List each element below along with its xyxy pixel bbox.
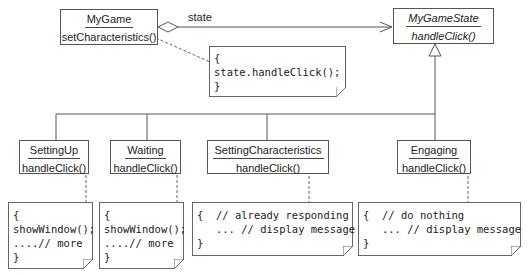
note-line: } [363, 237, 369, 249]
note-line: ....// more [104, 237, 174, 249]
note-fold-icon [343, 246, 353, 256]
note-settingcharacteristics: { // already responding ... // display m… [192, 202, 353, 256]
class-operation: handleClick() [394, 29, 493, 43]
note-line: { // do nothing [363, 209, 464, 221]
class-operation: setCharacteristics() [61, 30, 157, 44]
note-line: { // already responding [197, 209, 349, 221]
note-line: } [104, 251, 110, 263]
class-operation: handleClick() [208, 161, 328, 175]
class-name: Engaging [409, 143, 460, 159]
note-line: showWindow(); [13, 223, 95, 235]
note-fold-icon [336, 87, 346, 97]
aggregation-diamond-icon [158, 22, 178, 32]
class-settingcharacteristics[interactable]: SettingCharacteristics handleClick() [207, 140, 329, 174]
inheritance-triangle-icon [429, 44, 441, 56]
note-fold-icon [83, 259, 93, 269]
note-line: { [13, 209, 19, 221]
note-line: } [197, 237, 203, 249]
class-engaging[interactable]: Engaging handleClick() [397, 140, 471, 174]
note-line: } [13, 251, 19, 263]
note-waiting: { showWindow(); ....// more } [99, 202, 184, 269]
note-line: ... // display message [363, 223, 521, 235]
class-name: SettingCharacteristics [213, 143, 324, 159]
class-waiting[interactable]: Waiting handleClick() [110, 140, 181, 174]
class-settingup[interactable]: SettingUp handleClick() [19, 140, 89, 174]
class-name: MyGameState [406, 11, 480, 27]
note-line: } [214, 80, 220, 92]
class-mygame[interactable]: MyGame setCharacteristics() [60, 9, 158, 45]
note-line: ... // display message [197, 223, 355, 235]
class-operation: handleClick() [111, 161, 180, 175]
note-line: { [104, 209, 110, 221]
note-line: ....// more [13, 237, 83, 249]
note-line: state.handleClick(); [214, 66, 340, 78]
class-name: SettingUp [28, 143, 80, 159]
class-mygamestate[interactable]: MyGameState handleClick() [393, 8, 494, 44]
association-label: state [188, 11, 212, 23]
note-fold-icon [174, 259, 184, 269]
note-fold-icon [511, 246, 521, 256]
class-name: Waiting [125, 143, 165, 159]
class-operation: handleClick() [20, 161, 88, 175]
class-operation: handleClick() [398, 161, 470, 175]
note-line: { [214, 52, 220, 64]
class-name: MyGame [85, 12, 134, 28]
note-line: showWindow(); [104, 223, 186, 235]
note-settingup: { showWindow(); ....// more } [8, 202, 93, 269]
note-engaging: { // do nothing ... // display message } [358, 202, 521, 256]
note-context: { state.handleClick(); } [209, 46, 346, 97]
